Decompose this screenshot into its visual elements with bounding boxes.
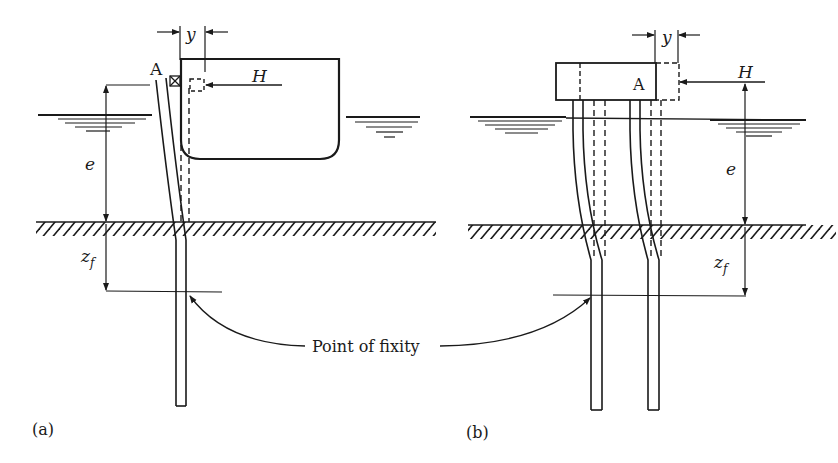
- displaced-block-a: [190, 79, 204, 91]
- water-surface-left-a: [38, 115, 152, 131]
- pile-fixity-diagram: A H y e zf (a) A H y e zf (b) Point of f…: [0, 0, 838, 463]
- free-length-dimension-a: [106, 85, 150, 221]
- panel-b: [468, 30, 836, 410]
- deflection-label-b: y: [661, 27, 672, 47]
- pile-deflected-b-left: [573, 100, 602, 410]
- water-surface-left-b: [470, 117, 566, 133]
- caption-b: (b): [466, 423, 489, 442]
- fixity-depth-label-a: zf: [80, 246, 97, 270]
- load-label-a: H: [251, 66, 268, 86]
- pile-deflected-b-right: [630, 100, 659, 410]
- fixity-depth-label-b: zf: [713, 252, 730, 276]
- node-label-a: A: [149, 59, 163, 79]
- free-length-label-b: e: [726, 159, 736, 179]
- node-label-b: A: [632, 75, 645, 94]
- water-surface-right-a: [346, 117, 420, 137]
- point-of-fixity-label: Point of fixity: [312, 337, 420, 356]
- load-label-b: H: [737, 62, 754, 82]
- seabed-soil-a: [36, 222, 436, 236]
- pile-cap-displaced: [580, 63, 679, 100]
- free-length-label-a: e: [85, 154, 95, 174]
- caption-a: (a): [32, 420, 54, 439]
- contact-node-a: [170, 76, 180, 86]
- water-surface-right-b: [710, 120, 806, 136]
- deflection-label-a: y: [185, 24, 196, 44]
